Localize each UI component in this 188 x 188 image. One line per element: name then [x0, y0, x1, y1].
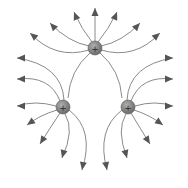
- field-line-top-6: [101, 33, 160, 53]
- charge-sign-label: +: [91, 44, 99, 54]
- arrowhead-icon: [71, 11, 80, 21]
- arrowhead-icon: [165, 55, 173, 62]
- field-line-bottom-left-1: [17, 78, 60, 101]
- arrowhead-icon: [25, 118, 36, 128]
- arrowhead-icon: [122, 149, 131, 159]
- field-line-top-8: [100, 53, 122, 98]
- positive-charge-top: +: [88, 41, 102, 55]
- arrowhead-icon: [165, 103, 173, 110]
- arrowhead-icon: [17, 55, 25, 62]
- field-line-bottom-right-6: [104, 110, 122, 170]
- arrowhead-icon: [59, 149, 68, 159]
- arrowhead-icon: [143, 135, 153, 145]
- charge-sign-label: +: [59, 103, 67, 113]
- arrowhead-icon: [37, 135, 47, 145]
- arrowhead-icon: [17, 76, 25, 83]
- field-line-top-5: [30, 33, 89, 53]
- arrowhead-icon: [17, 103, 25, 110]
- field-line-bottom-right-1: [131, 78, 173, 101]
- positive-charge-bottom-left: +: [56, 100, 70, 114]
- arrowhead-icon: [92, 8, 99, 16]
- electric-field-diagram: +++: [0, 0, 188, 188]
- field-lines: [17, 8, 173, 170]
- arrowhead-icon: [154, 118, 165, 128]
- point-charges: +++: [56, 41, 135, 114]
- arrowhead-icon: [111, 11, 120, 21]
- arrowhead-icon: [165, 76, 173, 83]
- positive-charge-bottom-right: +: [121, 100, 135, 114]
- field-line-top-7: [68, 53, 90, 98]
- charge-sign-label: +: [124, 103, 132, 113]
- field-line-bottom-left-6: [69, 110, 86, 170]
